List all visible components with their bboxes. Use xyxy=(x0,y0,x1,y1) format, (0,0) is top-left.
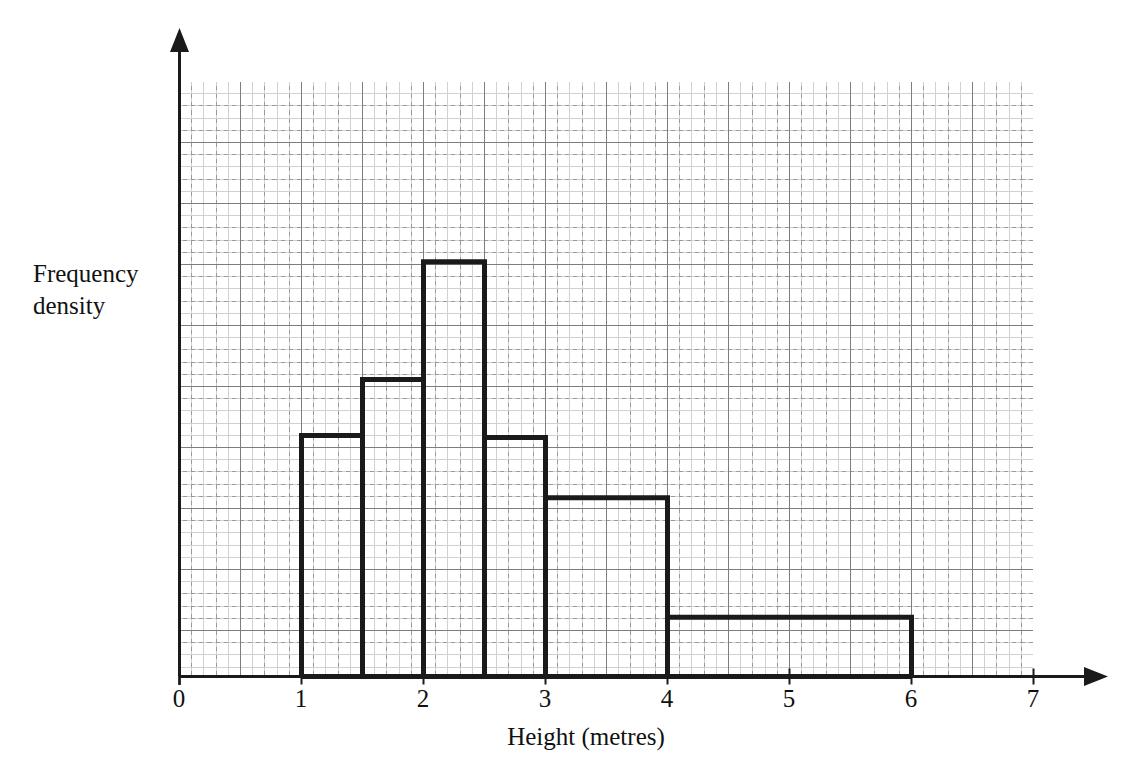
x-axis-arrowhead xyxy=(1084,667,1108,686)
x-tick-label-3: 3 xyxy=(525,686,565,711)
x-tick-label-0: 0 xyxy=(159,686,199,711)
y-axis-label-line2: density xyxy=(33,292,105,319)
x-tick-label-4: 4 xyxy=(647,686,687,711)
grid-paper-background xyxy=(179,82,1033,676)
x-axis-label: Height (metres) xyxy=(436,723,736,751)
x-tick-label-6: 6 xyxy=(891,686,931,711)
y-axis-label: Frequencydensity xyxy=(33,258,173,322)
x-tick-label-1: 1 xyxy=(281,686,321,711)
histogram-figure: 0 1 2 3 4 5 6 7 Frequencydensity Height … xyxy=(0,0,1135,771)
y-axis-label-line1: Frequency xyxy=(33,260,139,287)
x-tick-label-2: 2 xyxy=(403,686,443,711)
x-tick-label-5: 5 xyxy=(769,686,809,711)
x-tick-label-7: 7 xyxy=(1013,686,1053,711)
y-axis-arrowhead xyxy=(170,28,189,52)
